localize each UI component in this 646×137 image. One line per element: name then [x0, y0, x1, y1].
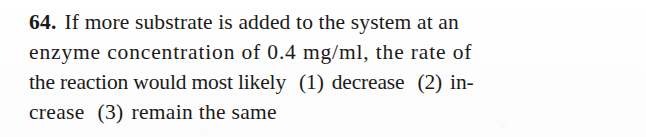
choice-3-label[interactable]: remain the same — [131, 100, 276, 124]
choice-2-marker[interactable]: (2) — [417, 70, 442, 94]
question-block: 64.If more substrate is added to the sys… — [29, 7, 625, 127]
question-line-1-text: If more substrate is added to the system… — [64, 10, 458, 34]
question-number: 64. — [29, 10, 56, 34]
choice-1-label[interactable]: decrease — [332, 70, 405, 94]
choice-2-label-part-1[interactable]: in- — [450, 70, 473, 94]
question-line-3: the reaction would most likely(1)decreas… — [29, 67, 625, 97]
choice-1-marker[interactable]: (1) — [299, 70, 324, 94]
document-page: 64.If more substrate is added to the sys… — [0, 0, 646, 137]
question-line-1: 64.If more substrate is added to the sys… — [29, 7, 625, 37]
question-line-2: enzyme concentration of 0.4 mg/ml, the r… — [29, 37, 625, 67]
question-line-4: crease(3)remain the same — [29, 97, 625, 127]
question-prompt-tail: the reaction would most likely — [29, 70, 286, 94]
choice-2-label-part-2[interactable]: crease — [29, 100, 85, 124]
choice-3-marker[interactable]: (3) — [98, 100, 124, 124]
